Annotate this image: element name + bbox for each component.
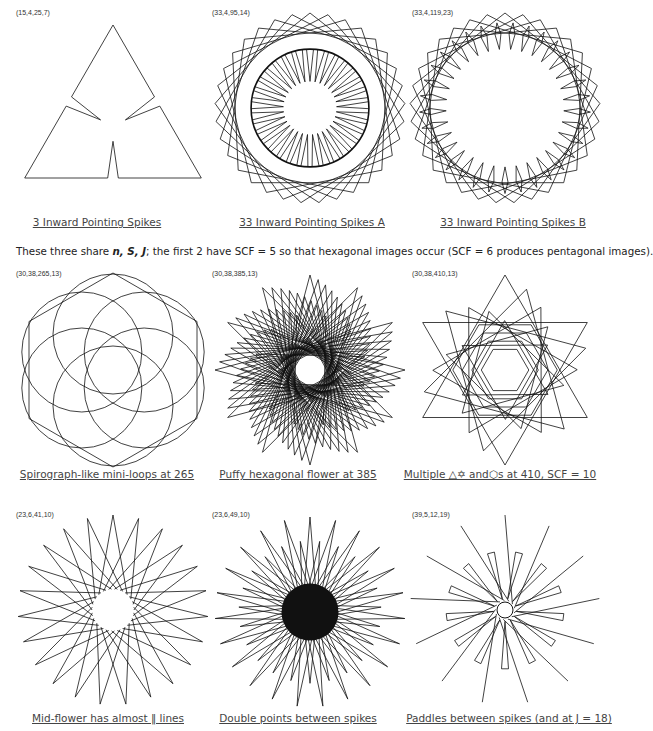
- figure-caption: Paddles between spikes (and at J = 18): [406, 712, 612, 724]
